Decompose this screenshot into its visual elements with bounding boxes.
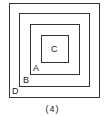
label-d: D [12,87,19,96]
label-a: A [33,64,39,73]
label-c: C [51,45,58,54]
figure-caption: (4) [0,104,105,114]
label-b: B [23,76,29,85]
